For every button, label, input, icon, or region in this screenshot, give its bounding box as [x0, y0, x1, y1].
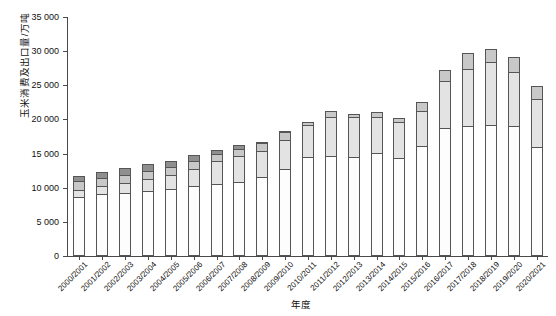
- bar-segment-feed: [508, 126, 520, 256]
- x-tick: [125, 256, 126, 260]
- x-tick: [537, 256, 538, 260]
- bar-segment-feed: [348, 157, 360, 256]
- bar-segment-feed: [119, 193, 131, 256]
- bar-segment-industrial: [485, 62, 497, 125]
- bar-segment-feed: [439, 128, 451, 256]
- bar-segment-food: [439, 70, 451, 80]
- bar-segment-food: [485, 49, 497, 62]
- bar-segment-feed: [233, 182, 245, 256]
- x-tick: [262, 256, 263, 260]
- bar-segment-industrial: [393, 122, 405, 158]
- y-tick: [63, 256, 67, 257]
- bar-column[interactable]: [211, 150, 223, 256]
- bar-segment-feed: [416, 146, 428, 256]
- bar-segment-feed: [325, 156, 337, 256]
- bar-column[interactable]: [73, 176, 85, 256]
- bar-column[interactable]: [279, 131, 291, 256]
- bar-column[interactable]: [485, 49, 497, 256]
- bar-column[interactable]: [119, 168, 131, 256]
- bar-segment-feed: [531, 147, 543, 256]
- x-axis-title: 年度: [291, 297, 311, 311]
- corn-consumption-export-chart: 玉米消费及出口量/万吨 05 00010 00015 00020 00025 0…: [0, 0, 556, 316]
- bar-column[interactable]: [371, 112, 383, 256]
- bar-segment-feed: [371, 153, 383, 256]
- bar-segment-food: [279, 132, 291, 140]
- y-tick-label: 10 000: [11, 183, 59, 193]
- y-tick: [63, 188, 67, 189]
- bar-column[interactable]: [439, 70, 451, 256]
- y-tick-label: 25 000: [11, 80, 59, 90]
- bar-segment-industrial: [96, 186, 108, 194]
- bar-segment-industrial: [348, 117, 360, 157]
- x-tick: [331, 256, 332, 260]
- bar-segment-food: [73, 181, 85, 190]
- x-tick: [445, 256, 446, 260]
- x-tick: [399, 256, 400, 260]
- bar-segment-feed: [165, 189, 177, 256]
- y-tick: [63, 85, 67, 86]
- bar-segment-feed: [211, 184, 223, 256]
- bar-segment-industrial: [462, 69, 474, 126]
- bar-segment-feed: [142, 191, 154, 256]
- bar-segment-industrial: [439, 81, 451, 128]
- bar-segment-export: [119, 168, 131, 175]
- x-tick: [422, 256, 423, 260]
- bar-segment-industrial: [188, 169, 200, 186]
- bar-segment-industrial: [508, 72, 520, 127]
- bar-segment-food: [508, 57, 520, 71]
- y-tick-label: 30 000: [11, 46, 59, 56]
- x-tick: [285, 256, 286, 260]
- x-tick: [239, 256, 240, 260]
- bar-column[interactable]: [233, 145, 245, 256]
- bar-segment-industrial: [531, 99, 543, 147]
- bar-column[interactable]: [462, 53, 474, 256]
- bar-segment-food: [142, 171, 154, 179]
- bar-segment-food: [233, 149, 245, 157]
- bar-segment-food: [165, 167, 177, 175]
- y-tick: [63, 119, 67, 120]
- y-tick-label: 20 000: [11, 114, 59, 124]
- bar-segment-feed: [188, 186, 200, 256]
- bar-segment-industrial: [165, 175, 177, 189]
- bar-column[interactable]: [325, 111, 337, 256]
- bar-segment-food: [119, 175, 131, 183]
- bar-column[interactable]: [188, 155, 200, 256]
- y-tick: [63, 17, 67, 18]
- x-tick: [514, 256, 515, 260]
- bar-column[interactable]: [508, 57, 520, 256]
- plot-area: 05 00010 00015 00020 00025 00030 00035 0…: [67, 17, 547, 256]
- bar-column[interactable]: [348, 114, 360, 256]
- x-tick: [79, 256, 80, 260]
- bar-segment-industrial: [371, 117, 383, 153]
- y-axis-line: [67, 17, 68, 256]
- bar-segment-feed: [256, 177, 268, 256]
- bar-segment-food: [256, 143, 268, 151]
- bar-column[interactable]: [256, 142, 268, 256]
- x-tick: [217, 256, 218, 260]
- x-tick: [491, 256, 492, 260]
- y-tick: [63, 154, 67, 155]
- bar-column[interactable]: [531, 86, 543, 256]
- bar-segment-industrial: [142, 179, 154, 191]
- bar-segment-feed: [279, 169, 291, 256]
- bar-segment-food: [96, 178, 108, 186]
- x-tick: [148, 256, 149, 260]
- bar-column[interactable]: [142, 164, 154, 256]
- y-tick-label: 5 000: [11, 217, 59, 227]
- bar-column[interactable]: [96, 172, 108, 256]
- bar-column[interactable]: [393, 118, 405, 256]
- bar-segment-food: [211, 154, 223, 162]
- bar-segment-industrial: [302, 125, 314, 157]
- bar-segment-industrial: [233, 156, 245, 181]
- x-tick: [468, 256, 469, 260]
- bar-segment-industrial: [279, 140, 291, 169]
- y-tick: [63, 51, 67, 52]
- y-tick: [63, 222, 67, 223]
- bar-segment-food: [188, 161, 200, 169]
- bar-column[interactable]: [165, 161, 177, 256]
- bar-column[interactable]: [302, 122, 314, 256]
- x-tick: [102, 256, 103, 260]
- bar-segment-industrial: [256, 151, 268, 178]
- bar-column[interactable]: [416, 102, 428, 256]
- y-tick-label: 0: [11, 251, 59, 261]
